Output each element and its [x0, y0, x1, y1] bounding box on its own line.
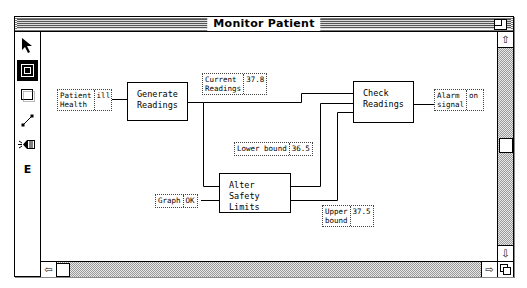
store-label: Patient Health — [58, 90, 95, 110]
arrow-right-icon: ⇨ — [485, 265, 493, 275]
store-value: OK — [184, 195, 197, 207]
store-patient-health[interactable]: Patient Health ill — [57, 89, 112, 111]
scroll-up-button[interactable]: ⇧ — [498, 32, 513, 48]
tool-connector[interactable] — [17, 110, 38, 131]
resize-icon — [498, 262, 513, 277]
store-lower-bound[interactable]: Lower bound 36.5 — [234, 142, 313, 156]
store-upper-bound[interactable]: Upper bound 37.5 — [322, 205, 374, 227]
store-box-icon — [20, 88, 35, 103]
store-label: Upper bound — [323, 206, 351, 226]
arrow-down-icon: ⇩ — [501, 249, 509, 259]
arrow-up-icon: ⇧ — [501, 35, 509, 45]
process-check-readings[interactable]: Check Readings — [353, 81, 414, 123]
tool-edit[interactable]: E — [17, 159, 38, 180]
vertical-scroll-thumb[interactable] — [499, 138, 513, 153]
connector-line-icon — [20, 113, 35, 128]
arrow-left-icon: ⇦ — [44, 265, 52, 275]
tool-palette: E — [15, 32, 41, 276]
window-title: Monitor Patient — [207, 17, 320, 31]
store-value: on — [467, 90, 483, 110]
tool-store[interactable] — [17, 85, 38, 106]
store-label: Lower bound — [235, 143, 290, 155]
store-graph[interactable]: Graph OK — [155, 194, 198, 208]
store-label: Graph — [156, 195, 184, 207]
process-generate-readings[interactable]: Generate Readings — [127, 82, 188, 121]
scroll-left-button[interactable]: ⇦ — [41, 262, 57, 277]
tool-process[interactable] — [17, 60, 38, 81]
store-label: Alarm signal — [435, 90, 467, 110]
tool-pointer[interactable] — [17, 35, 38, 56]
tool-alarm[interactable] — [17, 134, 38, 155]
process-label: Generate Readings — [137, 89, 178, 110]
store-value: 36.5 — [290, 143, 312, 155]
store-value: 37.5 — [351, 206, 373, 226]
store-current-readings[interactable]: Current Readings 37.8 — [202, 73, 267, 95]
horizontal-scroll-thumb[interactable] — [56, 263, 70, 277]
horizontal-scrollbar[interactable]: ⇦ ⇨ — [41, 261, 497, 277]
diagram-canvas[interactable]: Generate Readings Check Readings Alter S… — [41, 32, 497, 260]
process-label: Check Readings — [363, 88, 404, 109]
grow-box[interactable] — [497, 261, 513, 277]
vertical-scrollbar[interactable]: ⇧ ⇩ — [497, 32, 513, 261]
process-alter-safety-limits[interactable]: Alter Safety Limits — [219, 173, 291, 213]
process-box-icon — [20, 63, 35, 78]
process-label: Alter Safety Limits — [229, 180, 260, 212]
store-alarm-signal[interactable]: Alarm signal on — [434, 89, 484, 111]
title-bar[interactable]: Monitor Patient — [15, 17, 513, 32]
store-label: Current Readings — [203, 74, 244, 94]
e-icon: E — [24, 163, 32, 176]
speaker-icon — [18, 137, 37, 152]
zoom-box-icon[interactable] — [494, 19, 507, 30]
scroll-down-button[interactable]: ⇩ — [498, 245, 513, 261]
store-value: ill — [95, 90, 111, 110]
scroll-right-button[interactable]: ⇨ — [481, 262, 497, 277]
monitor-patient-window: Monitor Patient — [14, 16, 514, 277]
arrow-pointer-icon — [21, 37, 35, 55]
store-value: 37.8 — [244, 74, 266, 94]
